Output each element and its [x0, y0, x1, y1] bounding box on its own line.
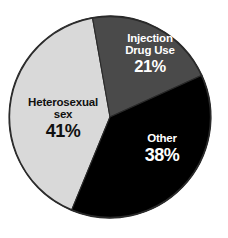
pie-chart-svg	[0, 0, 228, 238]
pie-chart-figure: Injection Drug Use 21% Other 38% Heteros…	[0, 0, 228, 238]
